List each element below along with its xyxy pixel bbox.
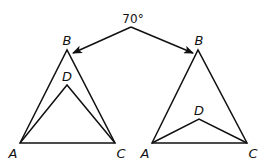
right-figure: B D A C	[140, 33, 259, 161]
left-label-a: A	[8, 146, 18, 161]
diagram-canvas: 70° B D A C B D A C	[0, 0, 266, 165]
right-label-d: D	[194, 103, 204, 118]
right-triangle-abc	[152, 50, 247, 143]
right-label-c: C	[248, 146, 258, 161]
right-label-a: A	[140, 146, 150, 161]
arrow-to-left-b	[73, 27, 131, 53]
right-segments-adc	[152, 119, 247, 143]
left-label-d: D	[62, 69, 72, 84]
right-label-b: B	[195, 33, 204, 48]
angle-label: 70°	[122, 12, 143, 26]
pointer-arrows	[73, 27, 193, 53]
left-triangle-abc	[20, 50, 115, 143]
left-label-c: C	[116, 146, 126, 161]
arrow-to-right-b	[131, 27, 193, 53]
left-label-b: B	[63, 33, 72, 48]
left-figure: B D A C	[8, 33, 127, 161]
